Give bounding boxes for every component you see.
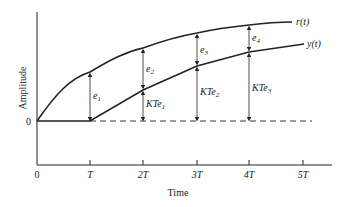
svg-text:0: 0 <box>35 169 40 180</box>
x-ticks <box>90 160 303 165</box>
label-kte2: KTe2 <box>199 86 220 99</box>
label-kte1: KTe1 <box>145 98 165 111</box>
error-arrows <box>90 28 249 119</box>
svg-text:T: T <box>87 169 94 180</box>
label-e2: e2 <box>146 63 154 76</box>
y-axis-label: Amplitude <box>17 66 28 109</box>
svg-text:2T: 2T <box>138 169 150 180</box>
label-e3: e3 <box>200 44 208 57</box>
svg-text:4T: 4T <box>244 169 256 180</box>
label-e1: e1 <box>93 90 101 103</box>
output-arrows <box>143 55 249 119</box>
amplitude-time-diagram: Amplitude 0 Time 0 T 2T 3T 4T 5T r(t) y(… <box>0 0 349 207</box>
label-e4: e4 <box>252 32 260 45</box>
svg-text:5T: 5T <box>298 169 310 180</box>
svg-text:3T: 3T <box>191 169 204 180</box>
x-axis-label: Time <box>168 187 189 198</box>
label-kte3: KTe3 <box>251 82 272 95</box>
origin-y-label: 0 <box>26 116 31 127</box>
curve-label-y: y(t) <box>306 38 322 50</box>
x-tick-labels: 0 T 2T 3T 4T 5T <box>35 169 310 180</box>
curve-label-r: r(t) <box>296 16 310 28</box>
